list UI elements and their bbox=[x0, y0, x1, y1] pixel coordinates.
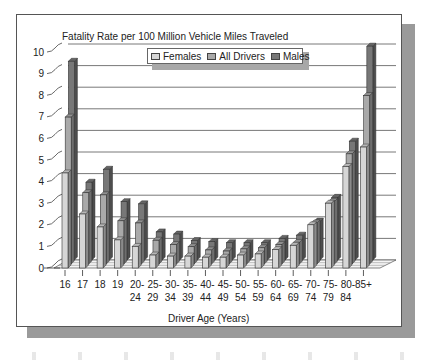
x-tick-label: 50- bbox=[235, 279, 249, 290]
bar-side bbox=[89, 190, 92, 264]
legend-swatch-all-drivers bbox=[207, 53, 216, 60]
y-tick-label: 5 bbox=[38, 155, 44, 166]
x-tick-label: 34 bbox=[165, 292, 177, 303]
bar-side bbox=[331, 200, 334, 268]
bar-females bbox=[220, 257, 226, 268]
bar-side bbox=[159, 237, 162, 264]
y-tick-mark bbox=[47, 65, 62, 74]
x-tick-label: 84 bbox=[340, 292, 352, 303]
x-tick-label: 30- bbox=[165, 279, 179, 290]
y-tick-label: 1 bbox=[38, 241, 44, 252]
bar-side bbox=[314, 222, 317, 268]
bar-side bbox=[268, 240, 271, 260]
legend-swatch-females bbox=[151, 53, 160, 60]
bar-females bbox=[80, 214, 86, 268]
x-tick-label: 40- bbox=[200, 279, 214, 290]
y-tick-mark bbox=[47, 86, 62, 95]
bar-side bbox=[215, 239, 218, 260]
bar-females bbox=[132, 246, 138, 268]
bar-females bbox=[115, 240, 121, 268]
x-tick-label: 69 bbox=[288, 292, 300, 303]
x-tick-label: 29 bbox=[147, 292, 159, 303]
bar-females bbox=[343, 166, 349, 268]
y-tick-mark bbox=[47, 43, 62, 52]
legend-label-males: Males bbox=[283, 51, 310, 62]
y-tick-mark bbox=[47, 216, 62, 225]
legend-label-all-drivers: All Drivers bbox=[219, 51, 265, 62]
y-tick-label: 2 bbox=[38, 219, 44, 230]
bar-females bbox=[308, 225, 314, 268]
bar-side bbox=[338, 194, 341, 260]
x-tick-label: 18 bbox=[95, 279, 107, 290]
x-tick-label: 44 bbox=[200, 292, 212, 303]
x-tick-label: 59 bbox=[253, 292, 265, 303]
x-tick-label: 25- bbox=[148, 279, 162, 290]
legend: Females All Drivers Males bbox=[147, 48, 303, 64]
bar-side bbox=[303, 232, 306, 260]
x-tick-label: 45- bbox=[218, 279, 232, 290]
bar-side bbox=[355, 138, 358, 260]
bar-females bbox=[150, 255, 156, 268]
legend-item-all-drivers: All Drivers bbox=[207, 51, 265, 62]
bar-side bbox=[349, 163, 352, 268]
bar-side bbox=[370, 93, 373, 264]
bar-females bbox=[202, 257, 208, 268]
bar-side bbox=[296, 242, 299, 268]
x-tick-label: 65- bbox=[288, 279, 302, 290]
x-tick-label: 54 bbox=[235, 292, 247, 303]
y-tick-label: 9 bbox=[38, 68, 44, 79]
bar-side bbox=[320, 218, 323, 260]
bar-females bbox=[273, 250, 279, 268]
bar-females bbox=[62, 173, 68, 268]
bar-females bbox=[290, 245, 296, 268]
x-tick-label: 64 bbox=[270, 292, 282, 303]
y-tick-mark bbox=[47, 108, 62, 117]
bar-side bbox=[373, 43, 376, 260]
bar-side bbox=[279, 247, 282, 268]
bar-side bbox=[92, 179, 95, 260]
y-tick-label: 8 bbox=[38, 90, 44, 101]
bar-side bbox=[141, 220, 144, 264]
x-tick-label: 75- bbox=[323, 279, 337, 290]
bar-females bbox=[325, 203, 331, 268]
bar-side bbox=[74, 58, 77, 260]
bar-side bbox=[68, 170, 71, 268]
bar-side bbox=[232, 240, 235, 260]
y-tick-mark bbox=[47, 173, 62, 182]
y-tick-label: 4 bbox=[38, 176, 44, 187]
bar-side bbox=[145, 201, 148, 260]
bar-side bbox=[180, 231, 183, 260]
legend-label-females: Females bbox=[163, 51, 201, 62]
x-tick-label: 79 bbox=[323, 292, 335, 303]
bar-females bbox=[360, 147, 366, 268]
bar-side bbox=[86, 211, 89, 268]
bar-side bbox=[103, 224, 106, 268]
bar-side bbox=[299, 239, 302, 264]
y-tick-label: 3 bbox=[38, 198, 44, 209]
x-tick-label: 17 bbox=[77, 279, 89, 290]
legend-swatch-males bbox=[271, 53, 280, 60]
y-tick-mark bbox=[47, 151, 62, 160]
bar-side bbox=[317, 220, 320, 264]
bar-side bbox=[121, 237, 124, 268]
bar-side bbox=[162, 229, 165, 260]
bar-side bbox=[194, 244, 197, 264]
y-tick-label: 10 bbox=[33, 47, 45, 58]
bar-females bbox=[255, 254, 261, 268]
bar-side bbox=[127, 199, 130, 260]
bar-side bbox=[335, 198, 338, 264]
x-axis-title: Driver Age (Years) bbox=[168, 313, 249, 324]
x-tick-label: 85+ bbox=[355, 279, 372, 290]
bar-side bbox=[124, 218, 127, 264]
bar-side bbox=[250, 240, 253, 260]
x-tick-label: 35- bbox=[183, 279, 197, 290]
y-tick-mark bbox=[47, 237, 62, 246]
bar-side bbox=[197, 238, 200, 260]
x-tick-label: 74 bbox=[305, 292, 317, 303]
x-tick-label: 39 bbox=[182, 292, 194, 303]
y-tick-label: 0 bbox=[38, 263, 44, 274]
legend-item-males: Males bbox=[271, 51, 310, 62]
x-tick-label: 16 bbox=[59, 279, 71, 290]
legend-item-females: Females bbox=[151, 51, 201, 62]
bar-side bbox=[138, 243, 141, 268]
